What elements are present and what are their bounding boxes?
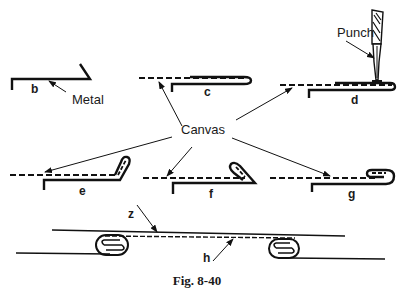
label-punch: Punch bbox=[337, 25, 374, 40]
label-c: c bbox=[204, 85, 211, 99]
label-e: e bbox=[79, 184, 86, 198]
step-e: e bbox=[10, 157, 130, 198]
label-b: b bbox=[31, 82, 38, 96]
label-f: f bbox=[209, 187, 214, 201]
step-b: b Metal bbox=[12, 64, 104, 107]
canvas-h bbox=[105, 236, 295, 238]
metal-fold-e bbox=[44, 157, 130, 190]
figure-caption: Fig. 8-40 bbox=[173, 273, 221, 288]
lower-metal-sheet-left bbox=[16, 253, 110, 254]
canvas-leader-e bbox=[45, 137, 172, 172]
canvas-leader-g bbox=[232, 138, 330, 176]
step-f: f bbox=[143, 163, 255, 201]
metal-fold-c bbox=[172, 77, 251, 92]
step-g: g bbox=[270, 170, 394, 201]
seam-left bbox=[96, 235, 128, 255]
lower-metal-sheet-right bbox=[290, 258, 385, 259]
label-canvas: Canvas bbox=[181, 122, 226, 137]
z-leader bbox=[137, 205, 157, 232]
metal-leader bbox=[49, 81, 66, 92]
label-z: z bbox=[128, 207, 134, 221]
step-h: z h bbox=[16, 205, 385, 265]
seam-right bbox=[269, 239, 299, 258]
canvas-leader-d bbox=[236, 88, 292, 120]
canvas-leader-c bbox=[159, 82, 182, 126]
h-leader bbox=[213, 239, 233, 261]
label-metal: Metal bbox=[72, 92, 104, 107]
label-d: d bbox=[351, 93, 358, 107]
metal-fold-f bbox=[173, 163, 255, 194]
canvas-leader-f bbox=[167, 147, 192, 176]
label-g: g bbox=[348, 187, 355, 201]
fig-8-40-diagram: b Metal c d Punch Canvas e bbox=[0, 0, 404, 289]
step-c: c bbox=[139, 77, 251, 99]
punch-leader bbox=[346, 41, 374, 58]
punch-icon bbox=[372, 10, 383, 83]
upper-metal-sheet bbox=[52, 230, 345, 236]
step-d: d Punch bbox=[280, 10, 395, 107]
metal-strip-b bbox=[12, 64, 90, 90]
label-h: h bbox=[203, 251, 210, 265]
